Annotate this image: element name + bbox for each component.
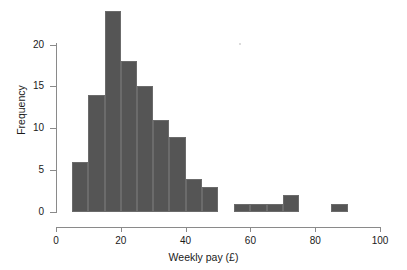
x-tick-label: 40 [166, 236, 206, 246]
x-tick-mark [380, 227, 381, 232]
histogram-bar [331, 204, 347, 212]
y-tick-mark [50, 45, 56, 46]
y-tick-mark [50, 212, 56, 213]
x-axis-line [56, 227, 381, 228]
histogram-bar [186, 179, 202, 213]
y-tick-label: 20 [22, 40, 44, 50]
x-tick-label: 100 [360, 236, 400, 246]
histogram-bar [250, 204, 266, 212]
histogram-bar [169, 137, 185, 212]
histogram-bar [105, 11, 121, 212]
x-tick-mark [56, 227, 57, 232]
y-axis-title: Frequency [15, 65, 27, 155]
x-axis-title: Weekly pay (£) [0, 251, 407, 263]
scan-artifact-speck [239, 43, 241, 45]
x-tick-label: 60 [230, 236, 270, 246]
histogram-bar [153, 120, 169, 212]
y-tick-mark [50, 170, 56, 171]
x-tick-mark [121, 227, 122, 232]
y-tick-mark [50, 128, 56, 129]
histogram-bar [283, 195, 299, 212]
x-tick-mark [315, 227, 316, 232]
y-tick-label: 0 [22, 207, 44, 217]
histogram-bar [72, 162, 88, 212]
x-tick-mark [250, 227, 251, 232]
histogram-bar [234, 204, 250, 212]
histogram-bar [137, 86, 153, 212]
y-tick-label: 5 [22, 165, 44, 175]
x-tick-label: 80 [295, 236, 335, 246]
y-axis-line [56, 43, 57, 213]
x-tick-label: 20 [101, 236, 141, 246]
y-tick-mark [50, 86, 56, 87]
histogram-bar [88, 95, 104, 212]
histogram-bar [121, 61, 137, 212]
histogram-bar [202, 187, 218, 212]
x-tick-mark [186, 227, 187, 232]
histogram-bar [267, 204, 283, 212]
histogram-figure: 05101520 Frequency 020406080100 Weekly p… [0, 0, 407, 270]
plot-area [56, 11, 380, 212]
x-tick-label: 0 [36, 236, 76, 246]
